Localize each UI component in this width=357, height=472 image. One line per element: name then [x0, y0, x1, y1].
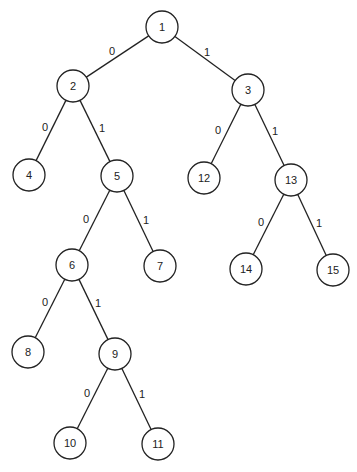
- node-label: 5: [114, 170, 120, 182]
- tree-node-4: 4: [13, 159, 45, 191]
- node-label: 15: [327, 264, 339, 276]
- node-label: 8: [25, 346, 31, 358]
- edge-label: 0: [42, 296, 48, 308]
- edge-label: 1: [139, 388, 145, 400]
- tree-node-13: 13: [275, 164, 307, 196]
- node-label: 10: [64, 437, 76, 449]
- edge-label: 0: [258, 216, 264, 228]
- node-label: 13: [285, 174, 297, 186]
- edge-6-8: [35, 279, 65, 337]
- edge-label: 1: [99, 122, 105, 134]
- edge-3-13: [255, 104, 284, 165]
- nodes-group: 123451213671415891011: [12, 11, 349, 460]
- edge-label: 0: [215, 124, 221, 136]
- edge-label: 1: [272, 125, 278, 137]
- node-label: 12: [198, 172, 210, 184]
- edge-2-5: [80, 100, 110, 161]
- edge-9-10: [77, 368, 108, 428]
- node-label: 6: [69, 259, 75, 271]
- edge-label: 1: [143, 214, 149, 226]
- tree-node-3: 3: [232, 74, 264, 106]
- tree-node-14: 14: [230, 253, 262, 285]
- tree-node-10: 10: [54, 427, 86, 459]
- edge-label: 1: [95, 297, 101, 309]
- node-label: 9: [112, 348, 118, 360]
- edge-6-9: [79, 279, 108, 339]
- node-label: 4: [26, 169, 32, 181]
- node-label: 11: [152, 438, 163, 450]
- edge-1-2: [86, 36, 148, 77]
- tree-node-2: 2: [57, 70, 89, 102]
- node-label: 1: [159, 21, 165, 33]
- edge-label: 0: [109, 45, 115, 57]
- edge-label: 0: [42, 121, 48, 133]
- node-label: 3: [245, 84, 251, 96]
- edge-label: 0: [83, 213, 89, 225]
- node-label: 14: [240, 263, 252, 275]
- edge-2-4: [36, 100, 66, 160]
- edge-label: 1: [204, 46, 210, 58]
- edge-1-3: [175, 36, 235, 80]
- tree-node-1: 1: [146, 11, 178, 43]
- edge-9-11: [122, 368, 151, 429]
- tree-node-9: 9: [99, 338, 131, 370]
- node-label: 7: [157, 260, 163, 272]
- tree-node-8: 8: [12, 336, 44, 368]
- edge-label: 0: [84, 387, 90, 399]
- tree-node-7: 7: [144, 250, 176, 282]
- tree-node-11: 11: [142, 428, 174, 460]
- tree-node-15: 15: [317, 254, 349, 286]
- tree-node-6: 6: [56, 249, 88, 281]
- tree-node-5: 5: [101, 160, 133, 192]
- edge-label: 1: [316, 217, 322, 229]
- node-label: 2: [70, 80, 76, 92]
- tree-node-12: 12: [188, 162, 220, 194]
- binary-tree-diagram: 01010101010101 123451213671415891011: [0, 0, 357, 472]
